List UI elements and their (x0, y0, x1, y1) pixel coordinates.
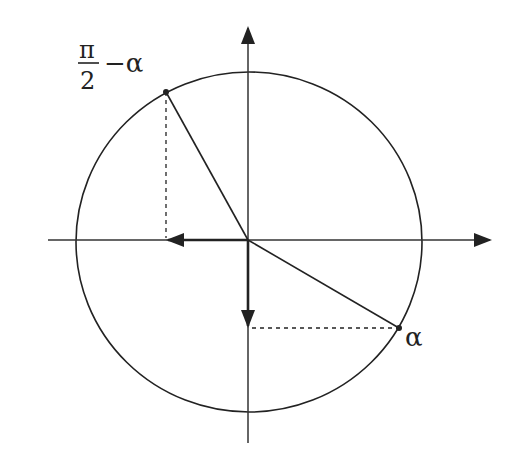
label-alpha: α (405, 322, 423, 352)
label-two: 2 (80, 67, 95, 95)
radius-complement (166, 92, 248, 240)
unit-circle-diagram: α π 2 −α (0, 0, 518, 464)
point-alpha (396, 325, 402, 331)
label-pi: π (79, 36, 95, 64)
label-minus-alpha: −α (104, 48, 143, 78)
radius-alpha (248, 240, 399, 328)
point-complement (163, 89, 169, 95)
